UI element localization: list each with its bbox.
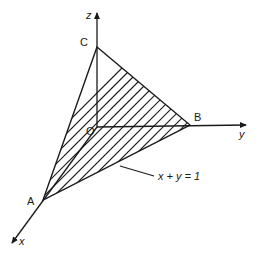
y-axis-label: y bbox=[238, 128, 246, 140]
origin-label: O bbox=[86, 125, 95, 137]
y-axis bbox=[97, 125, 246, 127]
z-axis-label: z bbox=[85, 9, 92, 21]
point-a-label: A bbox=[27, 195, 35, 207]
annotation-leader bbox=[120, 166, 154, 176]
x-axis bbox=[12, 127, 97, 243]
x-axis-label: x bbox=[18, 235, 25, 247]
point-b-label: B bbox=[194, 111, 201, 123]
diagram-canvas: z y x C B A O x + y = 1 bbox=[0, 0, 258, 254]
point-c-label: C bbox=[80, 36, 88, 48]
hatched-region bbox=[0, 50, 258, 250]
equation-label: x + y = 1 bbox=[157, 170, 200, 182]
